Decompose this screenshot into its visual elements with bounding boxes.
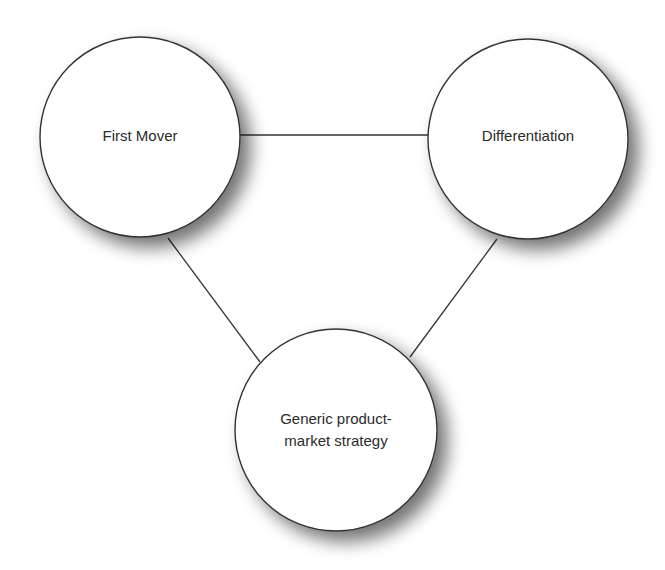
node-label: Differentiation bbox=[482, 127, 574, 144]
diagram-canvas: First Mover Differentiation Generic prod… bbox=[0, 0, 665, 570]
node-generic-strategy: Generic product- market strategy bbox=[235, 329, 437, 531]
edge-differentiation-generic-strategy bbox=[410, 239, 497, 357]
node-label-line-2: market strategy bbox=[284, 432, 388, 449]
node-label: First Mover bbox=[103, 127, 178, 144]
node-circle bbox=[235, 329, 437, 531]
edge-first-mover-generic-strategy bbox=[168, 238, 260, 362]
node-label-line-1: Generic product- bbox=[280, 410, 392, 427]
node-differentiation: Differentiation bbox=[428, 39, 628, 239]
node-first-mover: First Mover bbox=[40, 37, 240, 237]
